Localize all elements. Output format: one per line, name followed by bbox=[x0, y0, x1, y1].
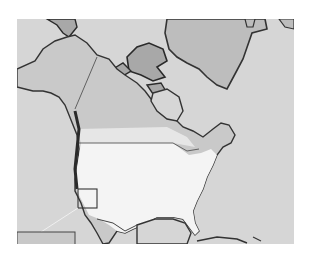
inset-panel bbox=[17, 232, 75, 244]
island bbox=[245, 19, 255, 27]
gulf-of-mexico bbox=[137, 219, 191, 244]
north-america-map bbox=[17, 19, 294, 244]
map-frame bbox=[17, 19, 294, 244]
